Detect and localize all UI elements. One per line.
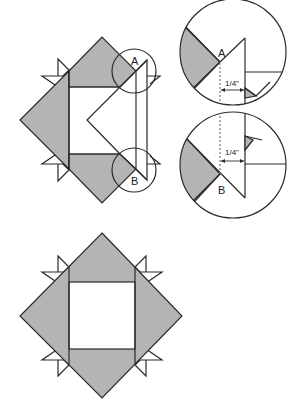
diagram-canvas: A B A 1/4" [0,0,291,407]
center-square [69,282,135,349]
folded-triangle [136,60,147,180]
label-a: A [131,55,139,67]
top-diagram [20,37,160,203]
gray-triangles [20,37,136,203]
bottom-diagram [20,233,182,398]
label-b: B [131,175,138,187]
detail-b-label: B [218,184,225,196]
detail-b [150,100,291,250]
detail-a-dimension: 1/4" [225,79,239,88]
detail-a [150,0,291,140]
detail-b-dimension: 1/4" [225,148,239,157]
detail-a-label: A [218,47,226,59]
